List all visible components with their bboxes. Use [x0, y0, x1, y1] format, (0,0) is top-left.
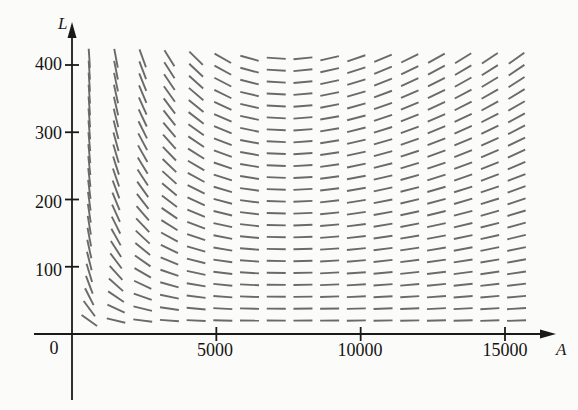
x-tick-label-15000: 15000	[460, 340, 550, 361]
y-tick-label-400: 400	[0, 54, 62, 75]
y-axis-label: L	[58, 14, 67, 34]
origin-tick-label: 0	[41, 338, 67, 359]
x-tick-label-5000: 5000	[175, 340, 255, 361]
direction-field-segments	[82, 49, 526, 326]
x-axis-label: A	[556, 340, 566, 360]
y-tick-label-100: 100	[0, 260, 62, 281]
y-tick-label-300: 300	[0, 123, 62, 144]
slope-field-figure: L A 0 400 300 200 100 5000 10000 15000	[0, 0, 578, 410]
y-tick-label-200: 200	[0, 192, 62, 213]
x-tick-label-10000: 10000	[315, 340, 405, 361]
